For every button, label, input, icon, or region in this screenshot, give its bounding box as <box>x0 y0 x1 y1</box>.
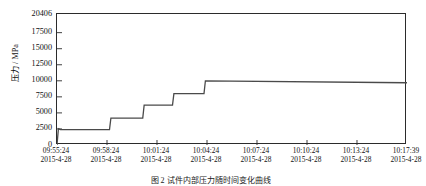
data-series-line <box>57 81 407 145</box>
y-tick-label: 20406 <box>0 9 52 18</box>
chart-canvas <box>57 14 407 145</box>
y-tick-label: 2500 <box>0 123 52 132</box>
plot-area <box>56 13 406 144</box>
x-tick-label: 10:17:392015-4-28 <box>371 146 426 165</box>
y-tick-label: 17500 <box>0 27 52 36</box>
y-tick-label: 12500 <box>0 59 52 68</box>
y-tick-label: 10000 <box>0 75 52 84</box>
y-tick-label: 15000 <box>0 43 52 52</box>
figure-caption: 图 2 试件内部压力随时间变化曲线 <box>0 176 421 186</box>
x-tick-time: 10:17:39 <box>371 146 426 155</box>
x-axis-tick-labels: 09:55:242015-4-2809:58:242015-4-2810:01:… <box>56 146 406 170</box>
y-tick-label: 7500 <box>0 91 52 100</box>
x-tick-date: 2015-4-28 <box>371 155 426 164</box>
y-axis-tick-labels: 02500500075001000012500150001750020406 <box>0 13 52 144</box>
y-tick-label: 5000 <box>0 107 52 116</box>
